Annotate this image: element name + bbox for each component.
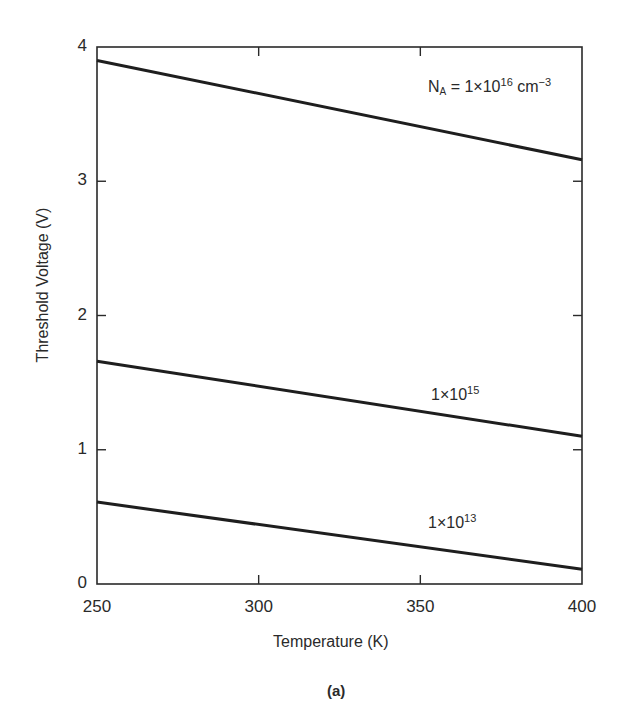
y-tick-label: 1 [57, 439, 87, 459]
series-label-1e15: 1×1015 [431, 384, 479, 404]
y-tick-label: 3 [57, 170, 87, 190]
data-lines [97, 60, 582, 569]
label-main: 1×10 [431, 386, 467, 403]
label-unit: cm [513, 78, 539, 95]
series-line-1 [97, 361, 582, 436]
label-exp: 16 [501, 76, 513, 88]
label-mid: = 1×10 [446, 78, 500, 95]
series-line-2 [97, 502, 582, 569]
y-axis-title: Threshold Voltage (V) [34, 200, 52, 370]
y-tick-label: 2 [57, 305, 87, 325]
figure-caption: (a) [327, 682, 345, 699]
y-tick-label: 0 [57, 573, 87, 593]
x-axis-title: Temperature (K) [273, 633, 389, 651]
label-exp: 15 [467, 384, 479, 396]
label-n: N [428, 78, 440, 95]
label-exp: 13 [464, 512, 476, 524]
axes-frame [97, 47, 582, 584]
x-tick-label: 400 [557, 597, 607, 617]
x-tick-label: 350 [395, 597, 445, 617]
label-unit-exp: −3 [539, 76, 552, 88]
series-label-1e16: NA = 1×1016 cm−3 [428, 76, 551, 97]
x-tick-label: 250 [72, 597, 122, 617]
y-tick-label: 4 [57, 36, 87, 56]
series-label-1e13: 1×1013 [428, 512, 476, 532]
label-main: 1×10 [428, 514, 464, 531]
plot-frame [97, 47, 582, 584]
x-tick-label: 300 [234, 597, 284, 617]
